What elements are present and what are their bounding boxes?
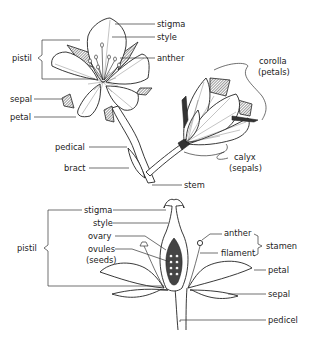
label-ovary: ovary — [88, 231, 111, 241]
label-sepal-bottom: sepal — [268, 289, 290, 299]
label-petal-top: petal — [10, 112, 31, 122]
label-pistil-top: pistil — [12, 53, 32, 63]
open-flower-illustration — [52, 18, 183, 183]
label-ovules-seeds: (seeds) — [86, 255, 117, 265]
label-pedical: pedical — [55, 142, 85, 152]
label-stem: stem — [184, 180, 205, 190]
label-calyx-sepals: (sepals) — [229, 163, 262, 173]
label-stamen: stamen — [266, 241, 297, 251]
label-ovules: ovules — [88, 244, 115, 254]
label-style-top: style — [157, 32, 177, 42]
label-anther-bottom: anther — [224, 228, 252, 238]
label-stigma-bottom: stigma — [84, 205, 112, 215]
label-filament: filament — [221, 248, 256, 258]
label-calyx: calyx — [234, 152, 256, 162]
label-pistil-bottom: pistil — [17, 243, 37, 253]
cross-section-labels: pistil stigma style ovary ovules (seeds)… — [17, 205, 298, 325]
label-corolla-petals: (petals) — [258, 67, 290, 77]
flower-anatomy-diagram: stigma style anther pistil sepal petal p… — [0, 0, 311, 340]
label-stigma-top: stigma — [157, 19, 185, 29]
label-style-bottom: style — [93, 218, 113, 228]
label-petal-bottom: petal — [268, 265, 289, 275]
label-pedicel: pedicel — [268, 315, 298, 325]
label-bract: bract — [64, 163, 86, 173]
label-anther-top: anther — [157, 53, 185, 63]
flower-bud-illustration — [178, 78, 258, 150]
label-sepal-top: sepal — [10, 94, 32, 104]
label-corolla: corolla — [259, 56, 287, 66]
flower-cross-section-illustration — [100, 199, 252, 330]
